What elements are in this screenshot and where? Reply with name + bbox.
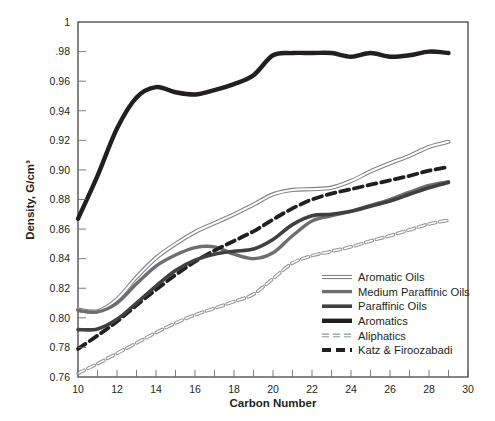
y-tick-label: 0.92 <box>50 134 71 146</box>
y-axis-title: Density, G/cm³ <box>24 160 36 240</box>
legend-label: Aromatics <box>358 315 408 327</box>
x-tick-label: 14 <box>150 383 162 395</box>
plot-frame <box>78 22 468 377</box>
legend-item: Katz & Firoozabadi <box>322 344 453 356</box>
legend-label: Aromatic Oils <box>358 271 425 283</box>
legend-item: Paraffinic Oils <box>322 300 427 312</box>
series-line <box>78 52 449 219</box>
plot-area-border <box>78 22 468 377</box>
y-tick-label: 0.94 <box>50 105 71 117</box>
x-tick-label: 28 <box>423 383 435 395</box>
x-axis-title: Carbon Number <box>230 397 317 409</box>
series-aromatics <box>78 52 449 219</box>
legend-label: Paraffinic Oils <box>358 300 427 312</box>
y-axis-ticks: 0.760.780.800.820.840.860.880.900.920.94… <box>50 16 86 383</box>
x-axis-ticks: 1012141618202224262830 <box>72 370 474 395</box>
legend-label: Aliphatics <box>358 330 406 342</box>
y-tick-label: 0.90 <box>50 164 71 176</box>
y-tick-label: 0.88 <box>50 193 71 205</box>
x-tick-label: 22 <box>306 383 318 395</box>
legend-item: Aromatic Oils <box>322 271 425 283</box>
y-tick-label: 0.80 <box>50 312 71 324</box>
legend-item: Aliphatics <box>322 330 406 342</box>
density-vs-carbon-number-chart: 1012141618202224262830 0.760.780.800.820… <box>0 0 495 421</box>
y-tick-label: .98 <box>55 45 70 57</box>
y-tick-label: 0.84 <box>50 252 71 264</box>
y-tick-label: 0.86 <box>50 223 71 235</box>
legend-item: Aromatics <box>322 315 408 327</box>
legend-label: Medium Paraffinic Oils <box>358 286 470 298</box>
y-tick-label: 0.78 <box>50 341 71 353</box>
chart-canvas: 1012141618202224262830 0.760.780.800.820… <box>0 0 495 421</box>
y-tick-label: 0.76 <box>50 371 71 383</box>
legend-item: Medium Paraffinic Oils <box>322 286 470 298</box>
x-tick-label: 24 <box>345 383 357 395</box>
x-tick-label: 16 <box>189 383 201 395</box>
y-tick-label: 1 <box>64 16 70 28</box>
y-tick-label: 0.96 <box>50 75 71 87</box>
legend-label: Katz & Firoozabadi <box>358 344 453 356</box>
x-tick-label: 20 <box>267 383 279 395</box>
y-tick-label: 0.82 <box>50 282 71 294</box>
x-tick-label: 26 <box>384 383 396 395</box>
x-tick-label: 10 <box>72 383 84 395</box>
x-tick-label: 18 <box>228 383 240 395</box>
x-tick-label: 30 <box>462 383 474 395</box>
x-tick-label: 12 <box>111 383 123 395</box>
chart-legend: Aromatic OilsMedium Paraffinic OilsParaf… <box>322 271 470 356</box>
